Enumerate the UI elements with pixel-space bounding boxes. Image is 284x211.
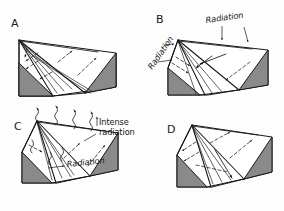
panel-d-letter: D [167,123,176,136]
panel-b: B Radiatio [145,10,268,95]
panel-c-intense-line1: Intense [99,117,129,127]
panel-b-leader-top-2 [244,27,248,42]
panel-b-radiation-label-top: Radiation [205,10,244,25]
panel-c-squiggle-2 [55,106,58,125]
panel-d-prism [177,125,272,187]
panel-b-letter: B [156,13,164,26]
panel-c-squiggle-4 [90,112,93,131]
panel-a: A [11,17,116,96]
figure-container: A [0,0,284,211]
panel-c-squiggle-1 [36,108,39,121]
panel-a-letter: A [11,17,19,30]
panel-c-letter: C [14,120,22,133]
four-panel-radiation-diagram: A [0,0,284,211]
panel-a-prism [19,40,116,96]
panel-d: D [167,123,272,187]
panel-c-intense-line2: radiation [99,127,135,137]
panel-c: C [14,106,135,183]
